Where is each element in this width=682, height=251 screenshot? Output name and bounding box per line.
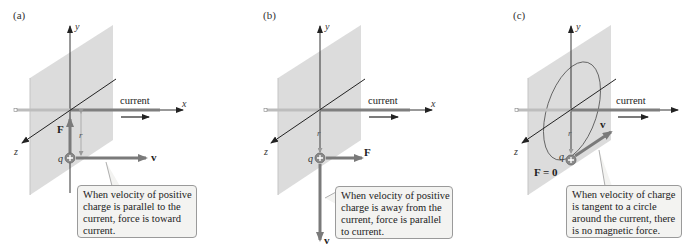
velocity-label: v bbox=[324, 234, 330, 246]
z-axis-label: z bbox=[13, 146, 18, 157]
y-axis-label: y bbox=[74, 21, 80, 32]
charge-label: q bbox=[559, 151, 564, 162]
force-label: F bbox=[57, 123, 64, 135]
callout-line: is tangent to a circle bbox=[572, 201, 676, 213]
callout-line: When velocity of positive bbox=[341, 190, 447, 202]
force-label: F = 0 bbox=[534, 166, 558, 178]
callout-line: is no magnetic force. bbox=[572, 225, 676, 237]
callout-line: charge is parallel to the bbox=[83, 201, 191, 213]
callout-line: around the current, there bbox=[572, 213, 676, 225]
velocity-label: v bbox=[151, 151, 157, 163]
distance-label: r bbox=[79, 130, 83, 140]
z-axis-label: z bbox=[263, 146, 268, 157]
current-label: current bbox=[616, 95, 646, 106]
callout-line: When velocity of charge bbox=[572, 189, 676, 201]
distance-label: r bbox=[568, 128, 572, 138]
callout-b: When velocity of positive charge is away… bbox=[335, 186, 453, 239]
y-axis-label: y bbox=[575, 21, 581, 32]
current-label: current bbox=[368, 95, 398, 106]
distance-label: r bbox=[317, 128, 321, 138]
charge-label: q bbox=[58, 153, 63, 164]
panel-c: (c) y current z r v q F = 0 bbox=[513, 9, 678, 195]
panel-a: (a) y x current z r F v q bbox=[13, 9, 187, 195]
callout-c: When velocity of charge is tangent to a … bbox=[566, 185, 682, 238]
panel-label: (b) bbox=[263, 9, 276, 22]
velocity-label: v bbox=[600, 118, 606, 130]
charge-label: q bbox=[308, 153, 313, 164]
panel-label: (a) bbox=[13, 9, 26, 22]
callout-line: current. bbox=[83, 225, 191, 237]
force-label: F bbox=[364, 146, 371, 158]
callout-line: current, force is parallel bbox=[341, 214, 447, 226]
z-axis-label: z bbox=[513, 146, 518, 157]
x-axis-label: x bbox=[430, 98, 436, 109]
y-axis-label: y bbox=[324, 21, 330, 32]
callout-line: to current. bbox=[341, 226, 447, 238]
callout-line: charge is away from the bbox=[341, 202, 447, 214]
callout-line: When velocity of positive bbox=[83, 189, 191, 201]
panel-label: (c) bbox=[513, 9, 526, 22]
x-axis-label: x bbox=[181, 98, 187, 109]
current-label: current bbox=[120, 95, 150, 106]
callout-line: current, force is toward bbox=[83, 213, 191, 225]
callout-a: When velocity of positive charge is para… bbox=[77, 185, 197, 238]
